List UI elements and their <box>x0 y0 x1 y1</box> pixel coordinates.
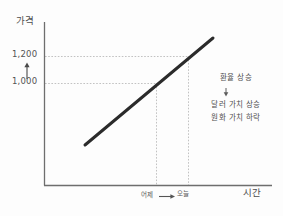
annotation-line-1: 환율 상승 <box>196 71 276 82</box>
exchange-rate-chart: 가격 1,200 1,000 어제 오늘 시간 환율 상승 달러 가치 상승 원… <box>0 0 283 216</box>
annotation-line-2: 달러 가치 상승 <box>196 98 276 109</box>
y-axis-title: 가격 <box>16 16 35 27</box>
annotation-block: 환율 상승 달러 가치 상승 원화 가치 하락 <box>196 71 276 124</box>
trend-line <box>85 38 213 145</box>
x-axis-title: 시간 <box>243 188 262 199</box>
annotation-line-3: 원화 가치 하락 <box>196 111 276 122</box>
x-time-arrow <box>159 194 175 199</box>
x-tick-label-today: 오늘 <box>177 191 189 198</box>
y-tick-label-lower: 1,000 <box>12 77 37 87</box>
x-tick-label-yesterday: 어제 <box>141 192 153 199</box>
y-tick-label-upper: 1,200 <box>12 50 37 60</box>
annotation-arrow-spacer <box>196 84 276 96</box>
